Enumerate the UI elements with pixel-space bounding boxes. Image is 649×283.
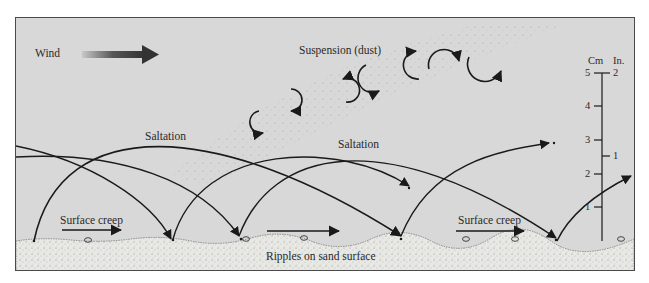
diagram-frame: Wind Suspension (dust) Saltation Saltati… [15, 17, 635, 271]
scale-cm-1: 1 [585, 201, 590, 212]
saltation-label-right: Saltation [338, 138, 379, 150]
surface-creep-label-right: Surface creep [458, 214, 521, 226]
height-scale [594, 73, 610, 241]
saltation-label-left: Saltation [145, 130, 186, 142]
surface-creep-arrows-icon [62, 230, 524, 231]
scale-cm-2: 2 [585, 168, 590, 179]
wind-label: Wind [35, 47, 60, 59]
scale-cm-header: Cm [588, 55, 603, 66]
ripples-label: Ripples on sand surface [266, 250, 376, 262]
wind-arrow-icon [82, 45, 159, 64]
scale-in-2: 2 [613, 67, 618, 78]
scale-cm-4: 4 [585, 100, 590, 111]
scale-cm-5: 5 [585, 67, 590, 78]
scale-in-1: 1 [613, 150, 618, 161]
scale-cm-3: 3 [585, 134, 590, 145]
surface-creep-label-left: Surface creep [60, 214, 123, 226]
suspension-label: Suspension (dust) [299, 44, 381, 56]
scale-in-header: In. [613, 55, 624, 66]
saltation-paths-icon [16, 143, 631, 241]
